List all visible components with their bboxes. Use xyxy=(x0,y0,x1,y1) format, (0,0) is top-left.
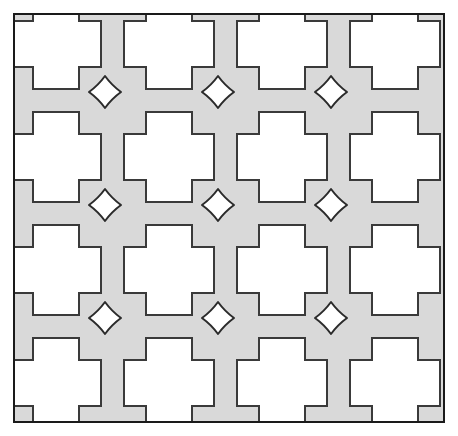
figure-root: Perforated lattice panel pattern Light g… xyxy=(0,0,458,436)
lattice-pattern-figure: Perforated lattice panel pattern Light g… xyxy=(0,0,458,436)
